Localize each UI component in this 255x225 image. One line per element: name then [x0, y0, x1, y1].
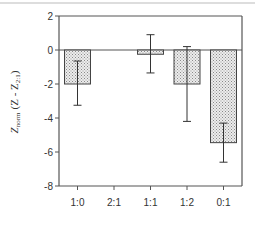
y-tick-label: 2: [47, 11, 53, 22]
y-axis: 20-2-4-6-8: [44, 11, 59, 192]
x-tick-label: 1:2: [180, 197, 194, 208]
x-tick-label: 1:0: [71, 197, 85, 208]
y-tick-label: -2: [44, 79, 53, 90]
x-axis: 1:02:11:11:20:1: [59, 186, 242, 208]
y-tick-label: -8: [44, 181, 53, 192]
y-axis-label: Znorm(Z - Z2:1): [8, 70, 22, 133]
y-tick-label: 0: [47, 45, 53, 56]
bar-chart: 20-2-4-6-8 1:02:11:11:20:1 Znorm(Z - Z2:…: [0, 0, 255, 225]
x-tick-label: 2:1: [107, 197, 121, 208]
error-bars: [74, 35, 228, 163]
y-tick-label: -4: [44, 113, 53, 124]
y-tick-label: -6: [44, 147, 53, 158]
x-tick-label: 1:1: [144, 197, 158, 208]
x-tick-label: 0:1: [217, 197, 231, 208]
